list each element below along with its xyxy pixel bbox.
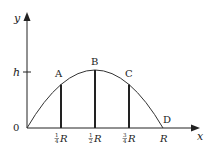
point-A-label: A [54, 68, 63, 79]
y-axis-label: y [13, 12, 21, 25]
svg-text:4: 4 [123, 138, 127, 144]
svg-text:R: R [93, 133, 102, 144]
height-label: h [13, 66, 20, 79]
tick-three-quarter-R: 3 4 R [123, 132, 137, 144]
tick-half-R: 1 2 R [89, 132, 103, 144]
point-B-label: B [91, 56, 98, 67]
point-C-label: C [125, 68, 133, 79]
y-axis-arrow-icon [24, 12, 31, 21]
point-D-label: D [163, 114, 171, 125]
svg-text:4: 4 [55, 138, 59, 144]
tick-R: R [159, 133, 168, 144]
svg-text:R: R [59, 133, 68, 144]
svg-text:R: R [127, 133, 136, 144]
tick-quarter-R: 1 4 R [55, 132, 69, 144]
trajectory-diagram: y x 0 h A B C D 1 4 R 1 2 R 3 4 R R [0, 0, 213, 148]
x-axis-label: x [197, 130, 204, 143]
origin-label: 0 [13, 122, 19, 133]
svg-text:2: 2 [89, 138, 93, 144]
